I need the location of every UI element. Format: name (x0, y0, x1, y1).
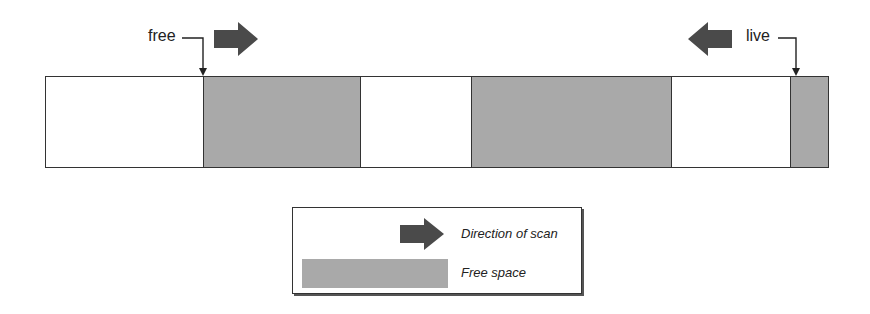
memory-segment-free (204, 77, 362, 167)
legend-direction-label: Direction of scan (461, 226, 558, 241)
memory-segment-used (46, 77, 204, 167)
legend: Direction of scan Free space (292, 207, 582, 294)
legend-free-label: Free space (461, 265, 526, 280)
memory-segment-used (672, 77, 791, 167)
memory-segment-free (791, 77, 828, 167)
free-pointer-label: free (148, 27, 176, 45)
scan-right-arrow-icon (212, 20, 262, 58)
scan-left-arrow-icon (684, 20, 734, 58)
live-pointer-line-icon (776, 30, 806, 78)
legend-free-swatch (302, 259, 448, 288)
memory-segment-used (361, 77, 472, 167)
legend-arrow-icon (398, 216, 448, 252)
memory-bar (45, 76, 829, 168)
live-pointer-label: live (746, 27, 770, 45)
free-pointer-line-icon (180, 30, 210, 78)
memory-segment-free (472, 77, 672, 167)
